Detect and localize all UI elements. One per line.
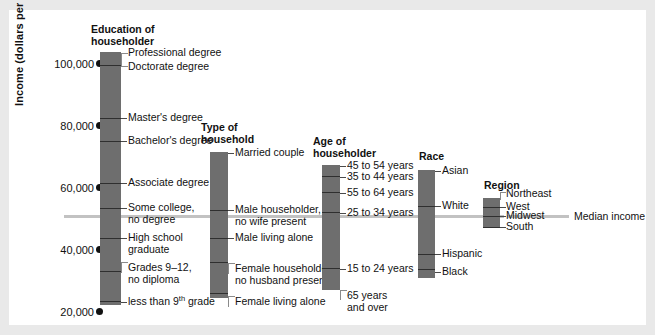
leader-female-householder <box>228 263 235 274</box>
label-masters-degree: Master's degree <box>128 112 203 124</box>
bar-seg-55-64 <box>322 192 340 193</box>
leader-black <box>435 272 441 273</box>
bar-household-type[interactable] <box>210 152 228 298</box>
label-grades-9-12: Grades 9–12, no diploma <box>128 262 192 285</box>
leader-male-householder <box>228 210 234 211</box>
y-axis-tick-label: 100,000 <box>54 58 94 70</box>
leader-asian <box>435 171 441 172</box>
leader-white <box>435 206 441 207</box>
group-title-education: Education of householder <box>91 24 201 47</box>
leader-65-and-over <box>340 290 347 300</box>
bar-seg-15-24 <box>322 268 340 269</box>
label-white: White <box>442 200 469 212</box>
leader-doctorate <box>121 53 128 67</box>
label-high-school-graduate: High school graduate <box>128 232 183 255</box>
y-axis-tick-label: 60,000 <box>60 182 94 194</box>
label-25-to-34-years: 25 to 34 years <box>347 207 414 219</box>
bar-seg-less-than-9 <box>100 301 121 302</box>
label-text: less than 9 <box>128 295 179 307</box>
leader-high-school <box>121 238 127 239</box>
leader-15-24 <box>340 269 346 270</box>
leader-grades-9-12 <box>121 262 128 273</box>
bar-age[interactable] <box>322 165 340 290</box>
bar-seg-white <box>418 206 435 207</box>
leader-masters <box>121 118 127 119</box>
label-55-to-64-years: 55 to 64 years <box>347 187 414 199</box>
bar-seg-male-householder <box>210 210 228 211</box>
leader-hispanic <box>435 254 441 255</box>
bar-seg-some-college <box>100 208 121 209</box>
leader-male-living-alone <box>228 238 234 239</box>
bar-seg-grades-9-12 <box>100 271 121 272</box>
leader-bachelors <box>121 141 127 142</box>
label-south: South <box>506 221 533 233</box>
label-hispanic: Hispanic <box>442 248 482 260</box>
tick-dot-icon <box>96 308 103 315</box>
leader-associate <box>121 183 127 184</box>
leader-45-54 <box>340 166 346 167</box>
y-axis-tick-label: 40,000 <box>60 244 94 256</box>
label-professional-degree: Professional degree <box>128 47 221 59</box>
bar-seg-female-living-alone <box>210 293 228 294</box>
label-35-to-44-years: 35 to 44 years <box>347 171 414 183</box>
label-asian: Asian <box>442 165 468 177</box>
bar-seg-high-school <box>100 238 121 239</box>
leader-55-64 <box>340 193 346 194</box>
label-some-college: Some college, no degree <box>128 202 195 225</box>
label-15-to-24-years: 15 to 24 years <box>347 263 414 275</box>
bar-education[interactable] <box>100 52 121 305</box>
y-axis-tick-20000: 20,000 <box>31 306 103 318</box>
label-female-living-alone: Female living alone <box>235 296 325 308</box>
label-male-householder: Male householder, no wife present <box>235 204 321 227</box>
leader-35-44 <box>340 177 346 178</box>
label-doctorate-degree: Doctorate degree <box>128 61 209 73</box>
chart-plate: Income (dollars per household per year) … <box>9 10 646 325</box>
y-axis-tick-60000: 60,000 <box>31 182 103 194</box>
label-65-years-and-over: 65 years and over <box>347 290 388 313</box>
bar-seg-west <box>483 207 500 208</box>
y-axis-tick-label: 80,000 <box>60 120 94 132</box>
group-title-household-type: Type of household <box>201 122 301 145</box>
label-northeast: Northeast <box>506 188 552 200</box>
y-axis-tick-100000: 100,000 <box>31 58 103 70</box>
label-associate-degree: Associate degree <box>128 177 209 189</box>
bar-seg-25-34 <box>322 212 340 213</box>
bar-seg-hispanic <box>418 254 435 255</box>
group-title-race: Race <box>419 151 479 163</box>
leader-female-living-alone <box>228 296 235 307</box>
label-male-living-alone: Male living alone <box>235 232 313 244</box>
bar-seg-bachelors <box>100 141 121 142</box>
bar-seg-associate <box>100 183 121 184</box>
leader-married-couple <box>228 153 234 154</box>
figure-canvas: Income (dollars per household per year) … <box>0 0 655 335</box>
median-income-label: Median income <box>574 210 645 222</box>
bar-seg-35-44 <box>322 176 340 177</box>
bar-seg-female-householder <box>210 262 228 263</box>
bar-seg-black <box>418 269 435 270</box>
bar-region[interactable] <box>483 198 500 228</box>
bar-seg-south <box>483 227 500 228</box>
group-title-age: Age of householder <box>313 136 413 159</box>
leader-some-college <box>121 208 127 209</box>
y-axis-tick-label: 20,000 <box>60 306 94 318</box>
bar-seg-doctorate <box>100 65 121 66</box>
bar-seg-male-living-alone <box>210 238 228 239</box>
y-axis-tick-40000: 40,000 <box>31 244 103 256</box>
leader-less-than-9 <box>121 302 127 303</box>
label-less-than-9th-grade: less than 9th grade <box>128 296 215 308</box>
label-female-householder: Female householder, no husband present <box>235 263 333 286</box>
label-bachelors-degree: Bachelor's degree <box>128 135 212 147</box>
label-black: Black <box>442 266 468 278</box>
label-married-couple: Married couple <box>235 147 304 159</box>
bar-seg-midwest <box>483 216 500 217</box>
leader-25-34 <box>340 213 346 214</box>
bar-seg-masters <box>100 118 121 119</box>
bar-race[interactable] <box>418 170 435 278</box>
y-axis-tick-80000: 80,000 <box>31 120 103 132</box>
y-axis-title: Income (dollars per household per year) <box>13 0 31 106</box>
